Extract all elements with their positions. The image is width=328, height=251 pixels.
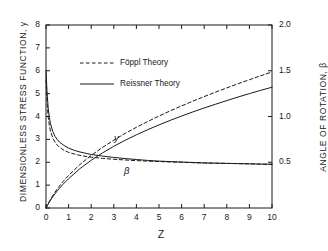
y-tick-right-1.0: 1.0 [279, 111, 301, 121]
x-tick-10: 10 [262, 212, 282, 222]
x-tick-1: 1 [59, 212, 79, 222]
y-tick-left-8: 8 [22, 19, 40, 29]
y-tick-left-0: 0 [22, 202, 40, 212]
legend-label-reissner: Reissner Theory [120, 79, 180, 88]
x-tick-8: 8 [217, 212, 237, 222]
y-tick-left-6: 6 [22, 65, 40, 75]
y-tick-right-0.5: 0.5 [279, 156, 301, 166]
x-tick-0: 0 [36, 212, 56, 222]
plot-frame [46, 25, 272, 208]
x-tick-4: 4 [126, 212, 146, 222]
x-tick-2: 2 [81, 212, 101, 222]
curve-label-beta: β [124, 165, 129, 176]
y-tick-left-1: 1 [22, 179, 40, 189]
y-tick-left-2: 2 [22, 156, 40, 166]
data-curves [46, 71, 272, 208]
y-tick-right-1.5: 1.5 [279, 65, 301, 75]
x-tick-6: 6 [172, 212, 192, 222]
legend-label-foppl: Föppl Theory [120, 58, 168, 67]
y-tick-right-2.0: 2.0 [279, 19, 301, 29]
curve-2 [46, 87, 272, 208]
x-tick-5: 5 [149, 212, 169, 222]
legend-samples [80, 63, 114, 84]
curve-3 [46, 72, 272, 208]
y-tick-left-7: 7 [22, 42, 40, 52]
curve-label-y: y [114, 132, 119, 143]
y-tick-left-3: 3 [22, 133, 40, 143]
y-tick-left-5: 5 [22, 88, 40, 98]
y-tick-left-4: 4 [22, 111, 40, 121]
x-tick-3: 3 [104, 212, 124, 222]
axis-ticks [46, 25, 272, 208]
x-tick-7: 7 [194, 212, 214, 222]
x-tick-9: 9 [239, 212, 259, 222]
